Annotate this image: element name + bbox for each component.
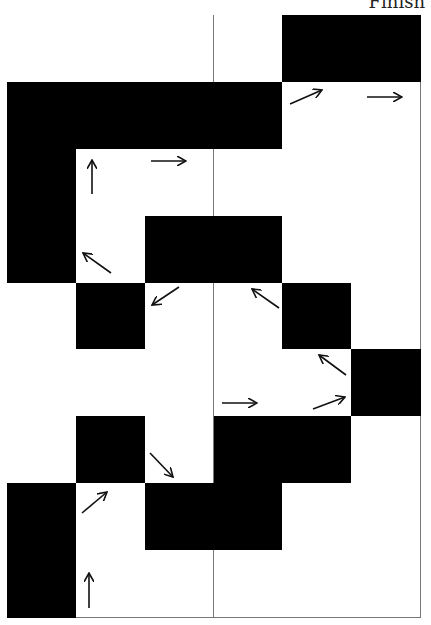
open-cell (76, 349, 146, 417)
wall-cell (7, 149, 77, 217)
open-cell (282, 216, 352, 284)
finish-label: Finish (369, 0, 425, 12)
wall-cell (76, 416, 146, 484)
open-cell (145, 149, 215, 217)
open-cell (282, 550, 352, 618)
wall-cell (7, 483, 77, 551)
open-cell (351, 82, 421, 150)
wall-cell (214, 82, 284, 150)
open-cell (76, 216, 146, 284)
open-cell (145, 550, 215, 618)
open-cell (351, 416, 421, 484)
open-cell (76, 483, 146, 551)
open-cell (7, 416, 77, 484)
open-cell (76, 15, 146, 83)
wall-cell (7, 82, 77, 150)
open-cell (351, 149, 421, 217)
wall-cell (282, 15, 352, 83)
wall-cell (282, 416, 352, 484)
open-cell (214, 283, 284, 351)
open-cell (351, 550, 421, 618)
wall-cell (76, 283, 146, 351)
open-cell (145, 283, 215, 351)
open-cell (282, 149, 352, 217)
open-cell (214, 15, 284, 83)
wall-cell (351, 15, 421, 83)
open-cell (282, 82, 352, 150)
wall-cell (214, 416, 284, 484)
wall-cell (7, 216, 77, 284)
open-cell (7, 283, 77, 351)
open-cell (7, 15, 77, 83)
open-cell (214, 149, 284, 217)
open-cell (351, 216, 421, 284)
open-cell (7, 349, 77, 417)
open-cell (76, 149, 146, 217)
wall-cell (214, 483, 284, 551)
wall-cell (214, 216, 284, 284)
open-cell (351, 483, 421, 551)
open-cell (76, 550, 146, 618)
open-cell (282, 483, 352, 551)
wall-cell (76, 82, 146, 150)
open-cell (145, 416, 215, 484)
open-cell (214, 550, 284, 618)
open-cell (282, 349, 352, 417)
wall-cell (282, 283, 352, 351)
wall-cell (145, 82, 215, 150)
maze-grid (7, 15, 420, 617)
open-cell (145, 349, 215, 417)
wall-cell (145, 216, 215, 284)
open-cell (214, 349, 284, 417)
wall-cell (7, 550, 77, 618)
open-cell (351, 283, 421, 351)
wall-cell (351, 349, 421, 417)
open-cell (145, 15, 215, 83)
wall-cell (145, 483, 215, 551)
